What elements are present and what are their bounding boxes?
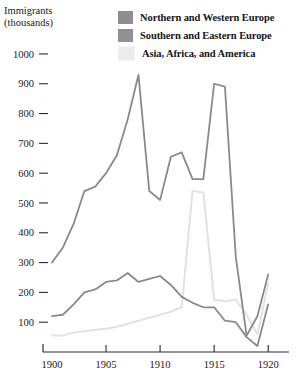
data-series-group: [52, 75, 268, 346]
x-tick-label: 1915: [204, 359, 225, 370]
y-tick-label: 100: [18, 317, 34, 328]
y-tick-label: 1000: [13, 49, 34, 60]
y-tick-label: 300: [18, 257, 34, 268]
y-tick-label: 600: [18, 168, 34, 179]
series-line: [52, 191, 268, 336]
y-tick-label: 700: [18, 138, 34, 149]
y-tick-label: 500: [18, 198, 34, 209]
x-tick-label: 1920: [258, 359, 279, 370]
y-tick-label: 200: [18, 287, 34, 298]
y-tick-label: 800: [18, 108, 34, 119]
series-line: [52, 75, 268, 336]
x-tick-label: 1905: [96, 359, 117, 370]
y-tick-label: 900: [18, 78, 34, 89]
y-tick-label: 400: [18, 227, 34, 238]
series-line: [52, 273, 268, 346]
y-axis-ticks: 1002003004005006007008009001000: [13, 49, 48, 328]
x-tick-label: 1910: [150, 359, 171, 370]
plot-area: 1002003004005006007008009001000 19001905…: [0, 0, 297, 379]
immigration-line-chart: Immigrants (thousands) Northern and West…: [0, 0, 297, 379]
x-axis: 19001905191019151920: [42, 344, 290, 370]
x-tick-label: 1900: [42, 359, 63, 370]
